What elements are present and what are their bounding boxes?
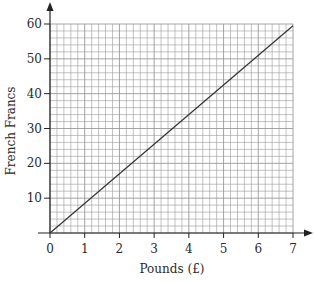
x-axis-arrow-icon	[304, 230, 313, 237]
y-axis-arrow-icon	[47, 2, 54, 11]
x-tick-label: 2	[116, 242, 124, 256]
chart-series	[50, 26, 293, 233]
x-axis-label: Pounds (£)	[140, 262, 205, 276]
chart-axes	[38, 2, 313, 238]
conversion-line	[50, 26, 293, 233]
x-tick-label: 3	[150, 242, 158, 256]
y-axis-label: French Francs	[4, 87, 18, 176]
y-tick-label: 30	[27, 122, 42, 136]
y-tick-label: 50	[27, 52, 42, 66]
x-tick-label: 7	[289, 242, 297, 256]
y-tick-label: 20	[27, 156, 42, 170]
y-tick-label: 60	[27, 17, 42, 31]
x-tick-label: 6	[254, 242, 262, 256]
x-tick-label: 4	[185, 242, 193, 256]
x-tick-label: 0	[46, 242, 54, 256]
conversion-chart: 01234567102030405060 Pounds (£) French F…	[0, 0, 315, 282]
chart-tick-labels: 01234567102030405060	[27, 17, 297, 256]
y-tick-label: 10	[27, 191, 42, 205]
y-tick-label: 40	[27, 87, 42, 101]
x-tick-label: 5	[220, 242, 228, 256]
x-tick-label: 1	[81, 242, 89, 256]
